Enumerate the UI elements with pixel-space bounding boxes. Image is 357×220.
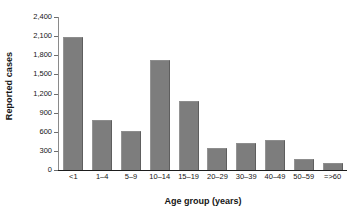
y-tick-label: 1,800 [14, 51, 52, 59]
x-tick-label: 40–49 [261, 172, 290, 182]
bar [179, 101, 199, 170]
x-axis-line [58, 170, 347, 171]
y-tick-label: 1,200 [14, 90, 52, 98]
bar [92, 120, 112, 170]
x-axis-tick-labels: <11–45–910–1415–1920–2930–3940–4950–59=>… [59, 172, 347, 186]
bar [150, 60, 170, 170]
y-axis-title-text: Reported cases [4, 52, 14, 120]
x-tick-label: 5–9 [117, 172, 146, 182]
x-tick-label: 1–4 [88, 172, 117, 182]
plot-area [59, 17, 347, 170]
x-tick-label: =>60 [318, 172, 347, 182]
bar [121, 131, 141, 170]
bar [265, 140, 285, 170]
y-tick-label: 0 [14, 166, 52, 174]
x-tick-label: 15–19 [174, 172, 203, 182]
y-tick-label: 900 [14, 109, 52, 117]
bar-chart-figure: Reported cases 03006009001,2001,5001,800… [0, 0, 357, 220]
x-tick-label: 50–59 [289, 172, 318, 182]
bar [294, 159, 314, 170]
x-tick-label: 20–29 [203, 172, 232, 182]
y-tick-label: 2,400 [14, 13, 52, 21]
bar [207, 148, 227, 170]
x-axis-title: Age group (years) [59, 196, 347, 206]
x-tick-label: 10–14 [145, 172, 174, 182]
y-tick-label: 300 [14, 147, 52, 155]
x-tick-label: 30–39 [232, 172, 261, 182]
bar [236, 143, 256, 170]
y-axis-tick-labels: 03006009001,2001,5001,8002,1002,400 [14, 0, 52, 180]
x-tick-label: <1 [59, 172, 88, 182]
y-tick-label: 1,500 [14, 70, 52, 78]
bar [63, 37, 83, 170]
bar [323, 163, 343, 170]
y-tick-label: 2,100 [14, 32, 52, 40]
y-tick-label: 600 [14, 128, 52, 136]
